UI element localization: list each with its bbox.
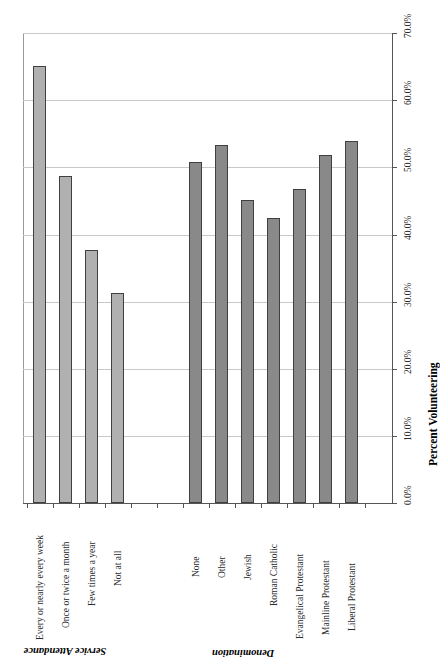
bar-liberal-protestant xyxy=(345,141,358,503)
tick-50 xyxy=(392,167,397,168)
cat-tick-3 xyxy=(105,503,106,508)
gridline-20 xyxy=(23,369,392,370)
cat-tick-5 xyxy=(157,503,158,508)
bar-none xyxy=(189,162,202,503)
value-tick-label-30: 30.0% xyxy=(404,282,414,307)
bar-few-times-a-year xyxy=(85,250,98,503)
category-label-once-or-twice-a-month: Once or twice a month xyxy=(62,541,72,628)
category-label-evangelical-protestant: Evangelical Protestant xyxy=(296,554,306,639)
group-title-service-attendance: Service Attendance xyxy=(10,646,120,657)
value-tick-label-0: 0.0% xyxy=(404,485,414,505)
bar-evangelical-protestant xyxy=(293,189,306,503)
category-label-liberal-protestant: Liberal Protestant xyxy=(348,563,358,631)
tick-10 xyxy=(392,436,397,437)
category-label-other: Other xyxy=(218,556,228,578)
value-tick-label-60: 60.0% xyxy=(404,80,414,105)
tick-0 xyxy=(392,503,397,504)
category-label-jewish: Jewish xyxy=(244,554,254,580)
cat-tick-4 xyxy=(131,503,132,508)
cat-tick-2 xyxy=(79,503,80,508)
cat-tick-12 xyxy=(339,503,340,508)
gridline-60 xyxy=(23,100,392,101)
value-axis-title: Percent Volunteering xyxy=(428,362,440,466)
bar-once-or-twice-a-month xyxy=(59,176,72,503)
value-tick-label-10: 10.0% xyxy=(404,416,414,441)
bar-every-or-nearly-every-week xyxy=(33,66,46,503)
gridline-40 xyxy=(23,235,392,236)
gridline-10 xyxy=(23,436,392,437)
category-label-every-or-nearly-every-week: Every or nearly every week xyxy=(36,535,46,640)
value-tick-label-70: 70.0% xyxy=(404,13,414,38)
category-label-mainline-protestant: Mainline Protestant xyxy=(322,560,332,635)
category-label-not-at-all: Not at all xyxy=(114,551,124,586)
category-label-roman-catholic: Roman Catholic xyxy=(270,544,280,606)
cat-tick-6 xyxy=(183,503,184,508)
bar-mainline-protestant xyxy=(319,155,332,503)
bar-jewish xyxy=(241,200,254,503)
cat-tick-10 xyxy=(287,503,288,508)
gridline-30 xyxy=(23,302,392,303)
value-tick-label-50: 50.0% xyxy=(404,147,414,172)
gridline-50 xyxy=(23,167,392,168)
tick-30 xyxy=(392,302,397,303)
cat-tick-7 xyxy=(209,503,210,508)
category-label-few-times-a-year: Few times a year xyxy=(88,541,98,606)
plot-area xyxy=(23,33,392,503)
cat-tick-0 xyxy=(27,503,28,508)
tick-20 xyxy=(392,369,397,370)
cat-tick-13 xyxy=(365,503,366,508)
tick-60 xyxy=(392,100,397,101)
value-axis-line xyxy=(392,33,393,504)
value-tick-label-20: 20.0% xyxy=(404,349,414,374)
cat-tick-9 xyxy=(261,503,262,508)
category-label-none: None xyxy=(192,556,202,577)
value-tick-label-40: 40.0% xyxy=(404,215,414,240)
cat-tick-1 xyxy=(53,503,54,508)
bar-other xyxy=(215,145,228,503)
gridline-70 xyxy=(23,33,392,34)
bar-roman-catholic xyxy=(267,218,280,503)
cat-tick-8 xyxy=(235,503,236,508)
cat-tick-11 xyxy=(313,503,314,508)
tick-40 xyxy=(392,235,397,236)
bar-not-at-all xyxy=(111,293,124,503)
group-title-denomination: Denomination xyxy=(178,648,308,659)
tick-70 xyxy=(392,33,397,34)
